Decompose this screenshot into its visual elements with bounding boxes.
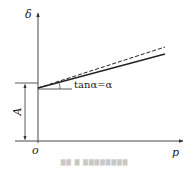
- a-dimension-arrow-top: [24, 84, 27, 89]
- origin-label: o: [32, 145, 39, 156]
- dimension-a-label: A: [12, 108, 23, 116]
- slope-annotation: tanα=α: [74, 80, 112, 90]
- y-axis-label: δ: [25, 9, 32, 20]
- figure-caption: ▇▇ ▇ ▇▇▇▇▇▇▇▇: [0, 158, 189, 165]
- angle-arc-icon: [59, 83, 60, 89]
- x-axis-label: p: [172, 147, 179, 158]
- a-dimension-arrow-bottom: [24, 136, 27, 141]
